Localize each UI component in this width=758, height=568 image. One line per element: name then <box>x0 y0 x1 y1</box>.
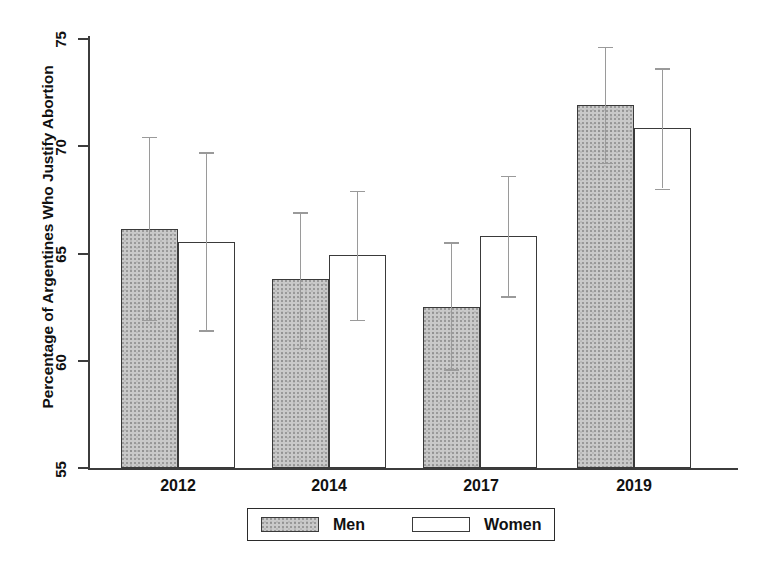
error-bar-stem-men-2017 <box>451 242 452 369</box>
error-bar-cap-lower-men-2012 <box>142 320 157 322</box>
bar-chart-figure: Percentage of Argentines Who Justify Abo… <box>0 0 758 568</box>
legend-entry-men: Men <box>248 509 365 540</box>
error-bar-cap-upper-men-2017 <box>444 242 459 244</box>
legend-label-women: Women <box>484 516 541 534</box>
error-bar-cap-upper-women-2017 <box>501 176 516 178</box>
error-bar-cap-lower-men-2014 <box>293 348 308 350</box>
error-bar-cap-upper-women-2019 <box>655 68 670 70</box>
error-bar-stem-women-2014 <box>357 191 358 320</box>
error-bar-stem-men-2019 <box>605 47 606 163</box>
error-bar-cap-upper-women-2012 <box>199 152 214 154</box>
error-bar-stem-women-2017 <box>508 176 509 296</box>
error-bar-cap-lower-women-2019 <box>655 189 670 191</box>
legend-entry-women: Women <box>399 509 541 540</box>
legend-label-men: Men <box>333 516 365 534</box>
error-bar-stem-men-2014 <box>300 212 301 347</box>
error-bar-cap-lower-women-2012 <box>199 330 214 332</box>
error-bar-cap-upper-men-2019 <box>598 47 613 49</box>
error-bar-stem-women-2012 <box>206 152 207 330</box>
x-tick-label-2012: 2012 <box>118 477 238 495</box>
error-bar-stem-women-2019 <box>662 68 663 188</box>
error-bar-cap-upper-men-2012 <box>142 137 157 139</box>
x-tick-label-2014: 2014 <box>269 477 389 495</box>
legend-swatch-men-icon <box>261 517 319 532</box>
error-bar-cap-lower-women-2017 <box>501 296 516 298</box>
chart-legend: Men Women <box>247 508 555 541</box>
error-bar-cap-lower-men-2019 <box>598 163 613 165</box>
legend-swatch-women-icon <box>412 517 470 532</box>
x-tick-label-2017: 2017 <box>421 477 541 495</box>
x-tick-label-2019: 2019 <box>574 477 694 495</box>
error-bar-cap-upper-women-2014 <box>350 191 365 193</box>
error-bar-cap-lower-men-2017 <box>444 369 459 371</box>
error-bar-cap-lower-women-2014 <box>350 320 365 322</box>
error-bar-stem-men-2012 <box>149 137 150 320</box>
error-bar-cap-upper-men-2014 <box>293 212 308 214</box>
